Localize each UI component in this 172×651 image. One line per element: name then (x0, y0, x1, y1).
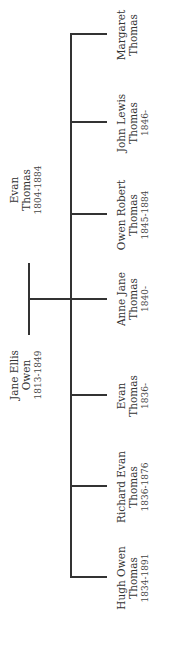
sibling-trunk (70, 33, 72, 578)
person-evan-thomas-jr: Evan Thomas 1836- (115, 356, 151, 436)
child-tick (70, 214, 107, 216)
person-richard-evan-thomas: Richard Evan Thomas 1836-1876 (115, 447, 151, 527)
child-tick (70, 122, 107, 124)
descent-line (29, 299, 107, 301)
person-owen-robert-thomas: Owen Robert Thomas 1845-1884 (115, 175, 151, 255)
child-tick (70, 395, 107, 397)
person-evan-thomas-sr: Evan Thomas 1804-1884 (8, 150, 44, 230)
family-tree: Evan Thomas 1804-1884 Jane Ellis Owen 18… (0, 0, 172, 651)
person-margaret-thomas: Margaret Thomas (115, 0, 139, 75)
child-tick (70, 34, 107, 36)
child-tick (70, 486, 107, 488)
person-hugh-owen-thomas: Hugh Owen Thomas 1834-1891 (115, 538, 151, 618)
person-john-lewis-thomas: John Lewis Thomas 1846- (115, 83, 151, 163)
person-anne-jane-thomas: Anne Jane Thomas 1840- (115, 259, 151, 339)
person-jane-ellis-owen: Jane Ellis Owen 1813-1849 (8, 335, 44, 415)
child-tick (70, 577, 107, 579)
